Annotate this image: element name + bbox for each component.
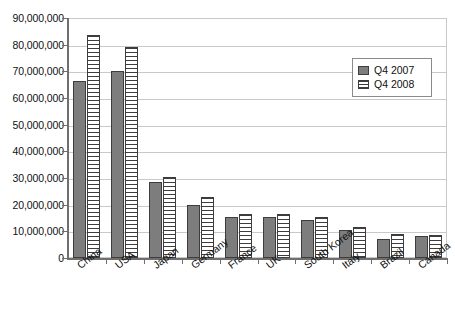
x-axis-tick [258,259,259,264]
bar [111,71,124,258]
y-axis-tick [62,45,68,46]
x-axis-tick [371,259,372,264]
legend-swatch-icon [358,80,369,89]
y-tick-label: 80,000,000 [0,40,64,50]
y-axis-tick [62,178,68,179]
bar [73,81,86,258]
y-tick-label: 30,000,000 [0,173,64,183]
legend-label: Q4 2008 [374,79,414,90]
bar [87,35,100,258]
y-tick-label: 50,000,000 [0,120,64,130]
y-axis-tick [62,71,68,72]
y-axis-tick [62,125,68,126]
y-axis-tick [62,205,68,206]
y-tick-label: 10,000,000 [0,226,64,236]
y-tick-label: 70,000,000 [0,66,64,76]
x-axis-tick [144,259,145,264]
bar [277,214,290,258]
bars-layer [68,18,447,258]
bar-chart: 90,000,00080,000,00070,000,00060,000,000… [0,0,455,312]
bar [149,182,162,258]
bar [187,205,200,258]
y-tick-label: 90,000,000 [0,13,64,23]
y-axis-tick [62,18,68,19]
y-axis-tick [62,98,68,99]
chart-legend: Q4 2007Q4 2008 [352,58,432,97]
x-axis-tick [106,259,107,264]
x-axis-labels: ChinaUSAJapanGermanyFranceUKSouth KoreaI… [0,258,455,312]
x-axis-tick [220,259,221,264]
x-axis-tick [182,259,183,264]
y-tick-label: 20,000,000 [0,200,64,210]
x-axis-tick [409,259,410,264]
y-tick-label: 40,000,000 [0,146,64,156]
legend-item: Q4 2007 [358,64,426,77]
y-axis-tick [62,151,68,152]
legend-item: Q4 2008 [358,78,426,91]
legend-label: Q4 2007 [374,65,414,76]
y-axis-tick [62,231,68,232]
legend-swatch-icon [358,66,369,75]
y-axis-tick [62,258,68,259]
x-axis-tick [447,259,448,264]
bar [125,47,138,258]
x-axis-tick [333,259,334,264]
x-axis-tick [295,259,296,264]
y-tick-label: 60,000,000 [0,93,64,103]
